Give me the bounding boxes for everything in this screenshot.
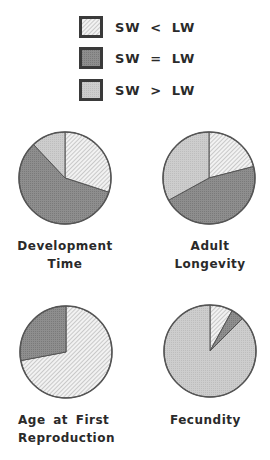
legend-label: SW < LW [115,20,195,35]
label-line: Fecundity [170,411,260,429]
label-line: Longevity [150,255,270,273]
label-development-time: Development Time [5,237,125,273]
pie-fecundity [161,302,259,400]
legend-label: SW > LW [115,83,195,98]
label-fecundity: Fecundity [170,411,260,429]
legend-label: SW = LW [115,51,195,66]
pie-adult-longevity [160,129,258,227]
light-swatch-icon [79,79,103,101]
pie-slice [20,306,66,361]
legend-item-sw-greater: SW > LW [79,79,195,101]
pie-development-time [16,129,114,227]
label-age-first-reproduction: Age at First Reproduction [18,411,118,447]
label-adult-longevity: Adult Longevity [150,237,270,273]
legend-item-sw-equal: SW = LW [79,47,195,69]
label-line: Time [5,255,125,273]
legend-item-sw-less: SW < LW [79,16,195,38]
label-line: Reproduction [18,429,118,447]
label-line: Age at First [18,411,118,429]
label-line: Adult [150,237,270,255]
hatched-swatch-icon [79,16,103,38]
pie-age-first-reproduction [17,303,115,401]
dark-swatch-icon [79,47,103,69]
label-line: Development [5,237,125,255]
